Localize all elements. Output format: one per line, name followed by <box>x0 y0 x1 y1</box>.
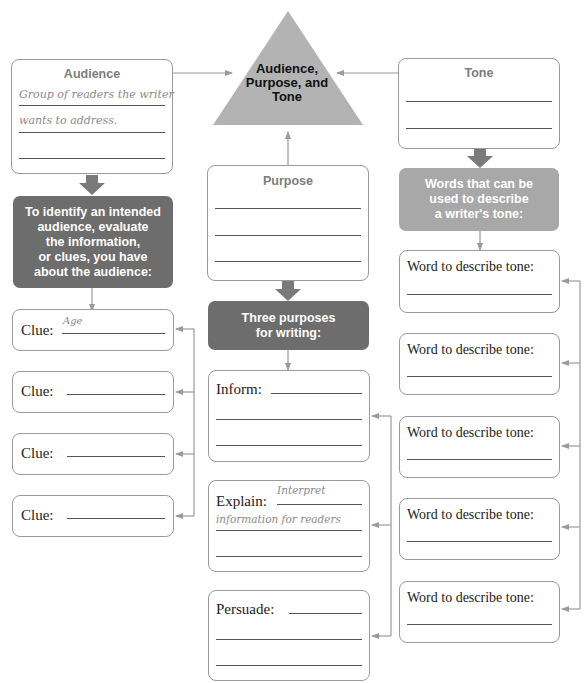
center-title-line: Purpose, and <box>222 76 352 90</box>
audience-box: Audience Group of readers the writer wan… <box>11 59 173 174</box>
answer-line[interactable] <box>407 541 552 542</box>
clue-value[interactable]: Age <box>63 315 83 326</box>
prompt-line: Words that can be <box>425 177 533 192</box>
center-title: Audience, Purpose, and Tone <box>222 62 352 104</box>
answer-line[interactable] <box>216 639 362 640</box>
down-arrow-audience <box>79 175 105 195</box>
tone-word-box: Word to describe tone: <box>399 498 560 560</box>
down-arrow-tone <box>467 148 493 168</box>
prompt-line: the information, <box>25 235 161 250</box>
prompt-line: To identify an intended <box>25 205 161 220</box>
purpose-persuade-box: Persuade: <box>208 590 370 681</box>
answer-line[interactable] <box>407 459 552 460</box>
audience-answer-line2[interactable]: wants to address. <box>19 114 117 127</box>
prompt-line: or clues, you have <box>25 250 161 265</box>
prompt-line: used to describe <box>425 192 533 207</box>
center-title-line: Audience, <box>222 62 352 76</box>
answer-line[interactable] <box>216 556 362 557</box>
audience-title: Audience <box>12 67 172 81</box>
clue-box: Clue: <box>12 495 174 537</box>
tone-word-box: Word to describe tone: <box>399 581 560 643</box>
purpose-explain-value1[interactable]: Interpret <box>277 484 326 496</box>
tone-word-box: Word to describe tone: <box>399 250 560 313</box>
purpose-label: Persuade: <box>216 601 274 618</box>
answer-line <box>19 132 165 133</box>
clue-answer-line[interactable] <box>67 456 165 457</box>
tone-word-label: Word to describe tone: <box>407 342 534 358</box>
center-title-line: Tone <box>222 90 352 104</box>
answer-line[interactable] <box>215 208 361 209</box>
purpose-explain-value2[interactable]: information for readers <box>216 513 341 525</box>
prompt-line: a writer's tone: <box>425 207 533 222</box>
tone-box: Tone <box>398 58 560 149</box>
purpose-box: Purpose <box>207 165 369 281</box>
answer-line <box>277 504 362 505</box>
clue-box: Clue: <box>12 433 174 475</box>
tone-word-label: Word to describe tone: <box>407 507 534 523</box>
tone-word-box: Word to describe tone: <box>399 333 560 395</box>
tone-word-box: Word to describe tone: <box>399 416 560 478</box>
clue-answer-line[interactable] <box>67 394 165 395</box>
purpose-label: Inform: <box>216 381 262 398</box>
clue-label: Clue: <box>21 383 54 400</box>
purpose-title: Purpose <box>208 174 368 188</box>
clue-answer-line[interactable] <box>67 518 165 519</box>
answer-line <box>62 333 165 334</box>
clue-label: Clue: <box>21 507 54 524</box>
answer-line[interactable] <box>216 419 362 420</box>
purpose-inform-box: Inform: <box>208 370 370 462</box>
purpose-label: Explain: <box>216 493 267 510</box>
audience-prompt-box: To identify an intended audience, evalua… <box>13 196 173 288</box>
answer-line[interactable] <box>407 624 552 625</box>
answer-line[interactable] <box>407 376 552 377</box>
prompt-line: Three purposes <box>242 311 336 326</box>
answer-line[interactable] <box>215 235 361 236</box>
prompt-line: about the audience: <box>25 265 161 280</box>
tone-prompt-box: Words that can be used to describe a wri… <box>399 168 559 231</box>
audience-answer-line1[interactable]: Group of readers the writer <box>19 88 174 101</box>
clue-box: Clue: <box>12 371 174 413</box>
answer-line[interactable] <box>407 294 552 295</box>
answer-line[interactable] <box>215 261 361 262</box>
answer-line[interactable] <box>19 158 165 159</box>
clue-box: Clue: Age <box>12 309 174 351</box>
clue-label: Clue: <box>21 322 54 339</box>
clue-label: Clue: <box>21 445 54 462</box>
prompt-line: audience, evaluate <box>25 220 161 235</box>
answer-line[interactable] <box>271 393 362 394</box>
answer-line[interactable] <box>406 128 552 129</box>
answer-line[interactable] <box>216 445 362 446</box>
tone-title: Tone <box>399 66 559 80</box>
tone-word-label: Word to describe tone: <box>407 425 534 441</box>
answer-line <box>216 530 362 531</box>
prompt-line: for writing: <box>242 326 336 341</box>
tone-word-label: Word to describe tone: <box>407 259 534 275</box>
purpose-prompt-box: Three purposes for writing: <box>208 301 369 350</box>
answer-line[interactable] <box>289 613 362 614</box>
tone-word-label: Word to describe tone: <box>407 590 534 606</box>
answer-line[interactable] <box>406 101 552 102</box>
purpose-explain-box: Explain: Interpret information for reade… <box>208 480 370 572</box>
answer-line[interactable] <box>216 665 362 666</box>
answer-line <box>19 105 165 106</box>
down-arrow-purpose <box>275 281 301 301</box>
